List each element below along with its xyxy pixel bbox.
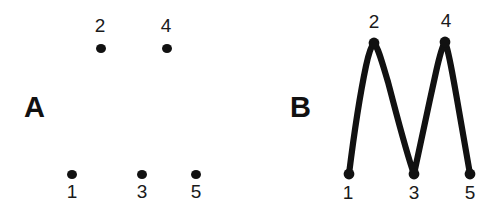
panel-label-a: A [24,93,45,122]
dot-b-4 [440,37,451,48]
dot-a-1 [67,170,77,179]
dot-a-4 [162,44,172,53]
zigzag-curve-layer [0,0,497,211]
dot-label-a-3: 3 [132,182,152,201]
dot-b-3 [409,169,420,180]
dot-label-b-3: 3 [404,183,424,202]
panel-label-b: B [290,93,311,122]
dot-b-5 [465,169,476,180]
dot-label-a-1: 1 [62,182,82,201]
dot-label-b-4: 4 [436,11,456,30]
dot-label-a-2: 2 [90,16,110,35]
dot-label-b-1: 1 [338,183,358,202]
figure-canvas: A 1 2 3 4 5 B 1 2 3 4 5 [0,0,497,211]
dot-a-2 [96,44,106,53]
zigzag-path [349,42,470,174]
dot-label-b-2: 2 [364,12,384,31]
dot-b-2 [369,38,380,49]
dot-b-1 [344,169,355,180]
dot-label-a-5: 5 [186,182,206,201]
dot-label-a-4: 4 [156,16,176,35]
dot-a-3 [137,170,147,179]
dot-label-b-5: 5 [460,183,480,202]
dot-a-5 [191,170,201,179]
